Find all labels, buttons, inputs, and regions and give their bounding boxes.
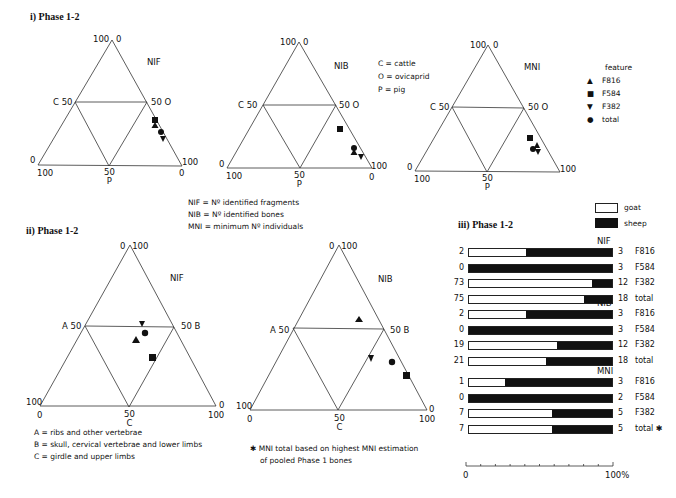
tri3-br-top: 100 bbox=[560, 164, 576, 174]
tri4-bottom-mid: 50C bbox=[124, 410, 135, 428]
tri3-right-mid: 50 O bbox=[528, 102, 548, 112]
goat-count: 73 bbox=[444, 278, 464, 287]
sheep-count: 18 bbox=[618, 294, 628, 303]
tri2-br-bottom: 0 bbox=[369, 172, 374, 182]
triangle-up-icon: ▲ bbox=[587, 74, 602, 87]
sheep-legend-label: sheep bbox=[624, 217, 647, 230]
def-nib: NIB = Nº identified bones bbox=[188, 209, 303, 221]
sheep-fill bbox=[526, 249, 612, 256]
tri2-bl-top: 0 bbox=[219, 159, 224, 169]
footnote-line2: of pooled Phase 1 bones bbox=[250, 455, 418, 467]
goat-count: 2 bbox=[444, 309, 464, 318]
bar-group-title-mni: MNI bbox=[597, 366, 613, 376]
tri3-bl-bottom: 100 bbox=[414, 174, 430, 184]
tri1-right-mid: 50 O bbox=[151, 97, 171, 107]
bar-axis-min: 0 bbox=[463, 470, 468, 480]
legend-cattle: C = cattle bbox=[378, 57, 429, 70]
legend-item-f584: ■F584 bbox=[587, 87, 632, 100]
sheep-swatch bbox=[595, 218, 618, 228]
goat-count: 75 bbox=[444, 294, 464, 303]
sheep-count: 3 bbox=[618, 377, 623, 386]
tri3-bl-top: 0 bbox=[407, 162, 412, 172]
legend-pig: P = pig bbox=[378, 83, 429, 96]
feature-label: F816 bbox=[635, 377, 655, 386]
feature-label: total bbox=[635, 294, 653, 303]
tri2-right-mid: 50 O bbox=[339, 100, 359, 110]
sheep-fill bbox=[546, 358, 612, 365]
def-nif: NIF = Nº identified fragments bbox=[188, 197, 303, 209]
sheep-fill bbox=[552, 410, 612, 417]
tri4-bl-top: 100 bbox=[26, 397, 42, 407]
tri4-title: NIF bbox=[170, 273, 184, 283]
sheep-count: 18 bbox=[618, 356, 628, 365]
tri5-left-mid: A 50 bbox=[270, 325, 289, 335]
tri3-apex-label: 100 0 bbox=[470, 40, 498, 50]
tri5-title: NIB bbox=[378, 274, 393, 284]
tri1-bottom-mid: 50P bbox=[104, 168, 115, 186]
legend-item-f816: ▲F816 bbox=[587, 74, 632, 87]
sheep-count: 3 bbox=[618, 263, 623, 272]
goat-count: 7 bbox=[444, 408, 464, 417]
legend-item-f382: ▼F382 bbox=[587, 100, 632, 113]
tri2-title: NIB bbox=[334, 61, 349, 71]
goat-count: 2 bbox=[444, 247, 464, 256]
tri2-apex-label: 100 0 bbox=[280, 37, 308, 47]
body-part-c: C = girdle and upper limbs bbox=[34, 451, 202, 463]
feature-label: F816 bbox=[635, 309, 655, 318]
tri3-title: MNI bbox=[524, 62, 540, 72]
bar-nif-total bbox=[468, 295, 613, 304]
tri5-bl-bottom: 0 bbox=[247, 414, 252, 424]
bar-nib-f816 bbox=[468, 310, 613, 319]
sheep-count: 3 bbox=[618, 247, 623, 256]
bar-nib-f382 bbox=[468, 341, 613, 350]
sheep-count: 5 bbox=[618, 408, 623, 417]
tri4-apex-label: 0 100 bbox=[120, 241, 148, 251]
bar-group-title-nif: NIF bbox=[597, 236, 611, 246]
tri1-bl-bottom: 100 bbox=[37, 168, 53, 178]
tri5-bottom-mid: 50C bbox=[334, 414, 345, 432]
sheep-fill bbox=[552, 426, 612, 433]
tri4-br-bottom: 100 bbox=[208, 410, 224, 420]
goat-count: 21 bbox=[444, 356, 464, 365]
goat-count: 0 bbox=[444, 325, 464, 334]
tri4-br-top: 0 bbox=[219, 400, 224, 410]
definitions: NIF = Nº identified fragments NIB = Nº i… bbox=[188, 197, 303, 233]
feature-legend: feature ▲F816 ■F584 ▼F382 ●total bbox=[587, 61, 632, 126]
feature-label: F816 bbox=[635, 247, 655, 256]
sheep-count: 3 bbox=[618, 309, 623, 318]
sheep-fill bbox=[505, 379, 612, 386]
tri5-br-top: 0 bbox=[429, 404, 434, 414]
feature-label: total bbox=[635, 356, 653, 365]
footnote-line1: ✱ MNI total based on highest MNI estimat… bbox=[250, 443, 418, 455]
square-icon: ■ bbox=[587, 87, 602, 100]
bar-mni-f816 bbox=[468, 378, 613, 387]
feature-label: F584 bbox=[635, 393, 655, 402]
feature-label: F382 bbox=[635, 340, 655, 349]
legend-ovicaprid: O = ovicaprid bbox=[378, 70, 429, 83]
legend-item-total: ●total bbox=[587, 113, 632, 126]
sheep-count: 5 bbox=[618, 424, 623, 433]
goat-swatch bbox=[595, 203, 618, 213]
tri2-bl-bottom: 100 bbox=[226, 171, 242, 181]
body-parts-legend: A = ribs and other vertebrae B = skull, … bbox=[34, 427, 202, 463]
tri2-bottom-mid: 50P bbox=[294, 171, 305, 189]
bar-mni-total bbox=[468, 425, 613, 434]
sheep-count: 12 bbox=[618, 278, 628, 287]
bar-nif-f816 bbox=[468, 248, 613, 257]
sheep-fill bbox=[592, 280, 612, 287]
tri4-right-mid: 50 B bbox=[181, 321, 200, 331]
tri1-bl-top: 0 bbox=[30, 155, 35, 165]
goat-count: 0 bbox=[444, 393, 464, 402]
feature-label: total ✱ bbox=[635, 424, 663, 433]
goat-count: 19 bbox=[444, 340, 464, 349]
feature-label: F584 bbox=[635, 325, 655, 334]
sheep-count: 12 bbox=[618, 340, 628, 349]
triangle-down-icon: ▼ bbox=[587, 100, 602, 113]
tri5-apex-label: 0 100 bbox=[329, 241, 357, 251]
sheep-fill bbox=[557, 342, 612, 349]
tri5-right-mid: 50 B bbox=[390, 325, 409, 335]
tri1-br-bottom: 0 bbox=[179, 168, 184, 178]
bar-nif-f584 bbox=[468, 264, 613, 273]
tri1-br-top: 100 bbox=[182, 157, 198, 167]
bar-group-title-nib: NIB bbox=[597, 298, 612, 308]
